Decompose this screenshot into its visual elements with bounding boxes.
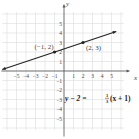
- svg-text:y − 2 =: y − 2 =: [64, 94, 87, 103]
- x-tick-label: 4: [101, 73, 104, 79]
- x-axis-label: x: [133, 74, 138, 82]
- data-point: [81, 41, 84, 44]
- x-tick-label: −5: [14, 73, 20, 79]
- x-tick-label: −3: [33, 73, 39, 79]
- y-tick-label: −1: [56, 78, 62, 84]
- line-arrow-icon: [112, 31, 116, 34]
- x-axis-arrow-icon: [127, 70, 130, 73]
- fraction-numerator: 1: [106, 93, 109, 98]
- y-tick-label: −2: [56, 87, 62, 93]
- y-tick-label: −5: [56, 116, 62, 122]
- x-tick-label: 1: [72, 73, 75, 79]
- x-tick-label: −4: [23, 73, 29, 79]
- equation-label: y − 2 = 1 3 (x + 1): [64, 93, 131, 104]
- x-tick-label: 3: [91, 73, 94, 79]
- axes: [1, 5, 129, 137]
- equation-lhs: y − 2 =: [64, 94, 87, 103]
- y-tick-label: 3: [59, 40, 62, 46]
- x-tick-label: −2: [42, 73, 48, 79]
- y-tick-label: −3: [56, 97, 62, 103]
- equation-rhs: (x + 1): [110, 94, 131, 103]
- point-label: (−1, 2): [35, 43, 55, 51]
- y-tick-label: 1: [59, 59, 62, 65]
- y-tick-label: 4: [59, 30, 62, 36]
- y-tick-label: 5: [59, 21, 62, 27]
- x-tick-label: 5: [110, 73, 113, 79]
- line-arrow-icon: [2, 67, 6, 70]
- x-tick-label: 2: [82, 73, 85, 79]
- coordinate-plane: −5−4−3−2−112345−5−4−3−2−112345 (−1, 2)(2…: [0, 0, 139, 139]
- point-label: (2, 3): [86, 44, 102, 52]
- y-tick-label: −4: [56, 106, 62, 112]
- y-axis-label: y: [65, 0, 70, 8]
